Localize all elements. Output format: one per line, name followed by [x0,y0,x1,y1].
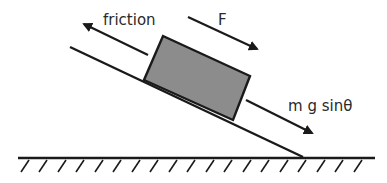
applied-force-label: F [218,11,227,29]
friction-label: friction [103,11,156,29]
gravity-component-label: m g sinθ [288,97,352,115]
incline-diagram: friction F m g sinθ [0,0,387,183]
ground-hatching [21,160,362,172]
